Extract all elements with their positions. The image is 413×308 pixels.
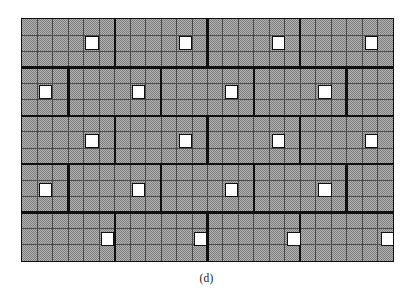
white-grid-cell (365, 134, 378, 148)
white-grid-cell (381, 232, 394, 246)
figure-caption: (d) (0, 272, 413, 284)
white-grid-cell (132, 85, 145, 99)
white-grid-cell (194, 232, 207, 246)
white-grid-cell (272, 134, 285, 148)
figure-panel: (d) (0, 0, 413, 308)
white-grid-cell (39, 85, 52, 99)
white-grid-cell (85, 134, 98, 148)
white-grid-cell (365, 36, 378, 50)
white-grid-cell (225, 85, 238, 99)
white-grid-cell (287, 232, 300, 246)
fine-grid-lines (22, 19, 393, 261)
white-grid-cell (39, 183, 52, 197)
white-grid-cell (225, 183, 238, 197)
major-block-lines (22, 19, 393, 261)
white-grid-cell (85, 36, 98, 50)
white-grid-cell (179, 134, 192, 148)
white-grid-cell (318, 85, 331, 99)
white-grid-cell (272, 36, 285, 50)
white-grid-cell (132, 183, 145, 197)
grid-diagram (21, 18, 394, 262)
white-grid-cell (179, 36, 192, 50)
white-grid-cell (318, 183, 331, 197)
white-grid-cell (101, 232, 114, 246)
